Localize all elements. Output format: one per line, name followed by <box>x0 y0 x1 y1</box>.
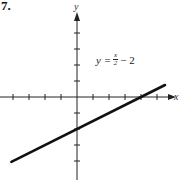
y-axis-label: y <box>74 1 78 12</box>
y-axis-arrow-icon <box>74 12 80 21</box>
equation-lhs: y = <box>96 54 111 66</box>
graph-plot <box>0 0 181 186</box>
x-axis-label: x <box>174 91 178 102</box>
equation-rest: − 2 <box>120 54 134 66</box>
equation-label: y = x 2 − 2 <box>96 52 135 67</box>
equation-fraction: x 2 <box>113 52 118 67</box>
fraction-denominator: 2 <box>114 60 118 67</box>
